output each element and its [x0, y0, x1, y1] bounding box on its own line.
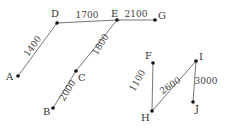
edge-weight-label: 1700	[76, 10, 99, 20]
weighted-graph-diagram: 14001700210018002000110026003000 ADEGCBF…	[0, 0, 226, 128]
edge-weight-label: 2600	[158, 75, 183, 96]
node-label-d: D	[51, 8, 59, 19]
node-d	[55, 21, 59, 25]
node-label-c: C	[78, 72, 86, 83]
edge-h-f	[152, 63, 153, 111]
edge-weight-label: 3000	[195, 76, 218, 86]
edge-weight-label: 1100	[127, 68, 147, 93]
node-a	[16, 74, 20, 78]
node-label-i: I	[199, 51, 203, 62]
edge-weight-label: 2000	[57, 78, 78, 103]
node-label-f: F	[145, 50, 152, 61]
node-labels-group: ADEGCBFIJH	[5, 8, 203, 123]
edge-weights-group: 14001700210018002000110026003000	[22, 9, 218, 103]
node-f	[151, 61, 155, 65]
node-label-b: B	[43, 106, 50, 117]
node-label-j: J	[194, 103, 199, 114]
node-label-e: E	[111, 8, 118, 19]
node-g	[153, 18, 157, 22]
node-i	[194, 59, 198, 63]
edge-d-e	[57, 20, 117, 23]
node-label-a: A	[5, 71, 14, 82]
node-b	[51, 106, 55, 110]
edge-weight-label: 1800	[90, 32, 111, 57]
node-label-g: G	[158, 10, 166, 21]
edges-group	[18, 20, 196, 111]
node-label-h: H	[141, 112, 150, 123]
node-h	[150, 109, 154, 113]
edge-weight-label: 2100	[125, 9, 148, 19]
